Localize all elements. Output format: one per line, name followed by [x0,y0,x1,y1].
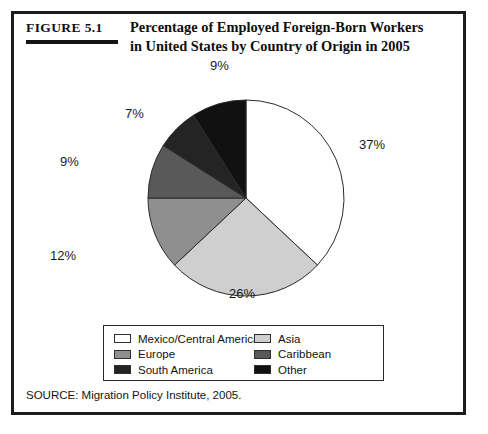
legend-swatch [254,350,271,359]
pie-label-caribbean: 9% [60,154,79,169]
legend-swatch [254,334,271,343]
legend-item: Mexico/Central America [114,333,254,345]
legend-label: Europe [138,348,175,360]
legend-grid: Mexico/Central AmericaAsiaEuropeCaribbea… [114,331,376,378]
legend-item: Caribbean [254,348,376,360]
legend-label: Caribbean [278,348,331,360]
pie-label-other: 9% [210,58,229,73]
pie-slice-group [148,100,344,296]
legend-label: Other [278,364,307,376]
figure-container: FIGURE 5.1 Percentage of Employed Foreig… [0,0,488,434]
legend-item: Other [254,364,376,376]
legend-swatch [114,334,131,343]
pie-chart: 9% 37% 26% 12% 9% 7% [14,62,441,314]
legend-label: Mexico/Central America [138,333,259,345]
pie-chart-svg [14,62,441,314]
legend-item: Europe [114,348,254,360]
figure-rule [26,40,118,44]
legend: Mexico/Central AmericaAsiaEuropeCaribbea… [103,325,384,381]
figure-header: FIGURE 5.1 Percentage of Employed Foreig… [26,18,436,68]
figure-title: Percentage of Employed Foreign-Born Work… [130,18,436,55]
legend-item: Asia [254,333,376,345]
figure-number: FIGURE 5.1 [26,20,122,36]
pie-label-europe: 12% [50,248,76,263]
legend-swatch [254,365,271,374]
legend-label: South America [138,364,213,376]
pie-label-asia: 26% [229,286,255,301]
legend-swatch [114,365,131,374]
source-note: SOURCE: Migration Policy Institute, 2005… [26,389,241,401]
legend-item: South America [114,364,254,376]
pie-label-south-america: 7% [125,106,144,121]
legend-label: Asia [278,333,300,345]
legend-swatch [114,350,131,359]
pie-label-mexico: 37% [359,137,385,152]
